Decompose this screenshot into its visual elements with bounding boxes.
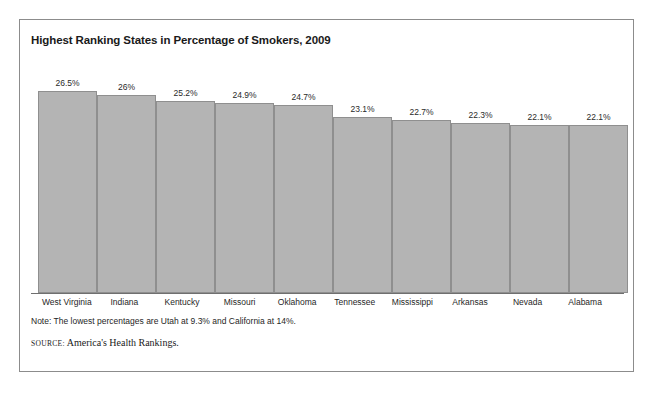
bar-rect[interactable] [38,91,97,293]
bar-item: 26% [97,65,156,293]
axis-tick-label: Alabama [556,297,614,307]
bar-rect[interactable] [274,105,333,293]
bar-item: 26.5% [38,65,97,293]
bar-item: 23.1% [333,65,392,293]
bar-value-label: 26.5% [55,78,79,88]
chart-source: Source: America's Health Rankings. [31,337,179,348]
bar-value-label: 22.1% [527,112,551,122]
plot-area: 26.5% 26% 25.2% 24.9% 24.7% 23.1% [31,65,624,293]
bar-value-label: 24.7% [291,92,315,102]
axis-tick-label: Arkansas [441,297,499,307]
chart-title: Highest Ranking States in Percentage of … [31,34,331,46]
bar-value-label: 22.3% [468,110,492,120]
bar-value-label: 22.7% [409,107,433,117]
bar-item: 22.3% [451,65,510,293]
bar-value-label: 26% [118,82,135,92]
axis-tick-label: Nevada [499,297,557,307]
bar-item: 22.1% [569,65,628,293]
bar-item: 22.1% [510,65,569,293]
bar-item: 22.7% [392,65,451,293]
x-axis-tick-labels: West Virginia Indiana Kentucky Missouri … [38,297,614,307]
bar-series: 26.5% 26% 25.2% 24.9% 24.7% 23.1% [38,65,614,293]
axis-tick-label: Oklahoma [268,297,326,307]
bar-rect[interactable] [156,101,215,293]
bar-item: 24.9% [215,65,274,293]
axis-tick-label: Kentucky [153,297,211,307]
bar-rect[interactable] [97,95,156,293]
bar-value-label: 23.1% [350,104,374,114]
axis-tick-label: Mississippi [384,297,442,307]
source-label: Source: [31,339,65,348]
source-text: America's Health Rankings. [67,337,179,348]
chart-frame: Highest Ranking States in Percentage of … [19,19,634,372]
axis-tick-label: Missouri [211,297,269,307]
bar-rect[interactable] [215,103,274,293]
bar-rect[interactable] [333,117,392,293]
x-axis-line [31,293,624,294]
chart-note: Note: The lowest percentages are Utah at… [31,316,624,326]
bar-item: 24.7% [274,65,333,293]
bar-value-label: 25.2% [173,88,197,98]
bar-value-label: 22.1% [586,112,610,122]
bar-rect[interactable] [510,125,569,293]
axis-tick-label: West Virginia [38,297,96,307]
bar-value-label: 24.9% [232,90,256,100]
bar-item: 25.2% [156,65,215,293]
axis-tick-label: Indiana [96,297,154,307]
bar-rect[interactable] [392,120,451,293]
axis-tick-label: Tennessee [326,297,384,307]
bar-rect[interactable] [451,123,510,293]
bar-rect[interactable] [569,125,628,293]
